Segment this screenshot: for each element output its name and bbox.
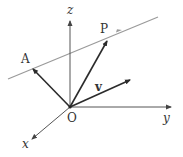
vector-v-label: v — [94, 80, 103, 94]
origin-point — [68, 105, 71, 108]
z-axis-label: z — [66, 3, 74, 17]
vector-diagram: z y x O A P v — [0, 0, 183, 157]
x-axis — [32, 107, 70, 139]
point-p-label: P — [100, 22, 108, 36]
origin-label: O — [67, 111, 77, 125]
vector-a — [33, 69, 70, 107]
y-axis-label: y — [162, 111, 170, 125]
x-axis-label: x — [22, 137, 29, 151]
line-through-a-and-p — [8, 17, 158, 79]
point-a-label: A — [20, 52, 30, 66]
